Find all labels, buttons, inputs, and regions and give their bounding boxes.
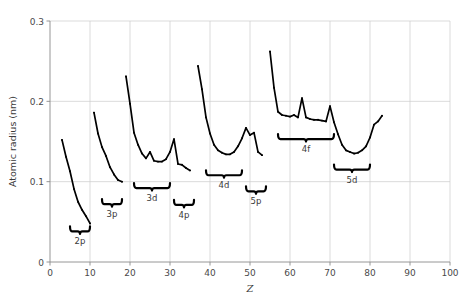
brace-label-2p: 2p	[75, 236, 86, 246]
data-point	[105, 155, 107, 157]
x-tick-label: 20	[124, 268, 136, 278]
brace-5p	[246, 186, 266, 194]
data-point	[349, 151, 351, 153]
data-point	[121, 181, 123, 183]
data-point	[213, 144, 215, 146]
data-point	[65, 156, 67, 158]
data-point	[169, 151, 171, 153]
brace-label-4p: 4p	[179, 210, 190, 220]
data-point	[185, 167, 187, 169]
data-point	[97, 133, 99, 135]
grid-lines	[50, 21, 450, 262]
data-point	[237, 145, 239, 147]
data-point	[285, 115, 287, 117]
data-point	[145, 157, 147, 159]
data-point	[309, 118, 311, 120]
brace-3p	[102, 199, 122, 207]
data-point	[201, 88, 203, 90]
data-point	[85, 215, 87, 217]
data-point	[209, 133, 211, 135]
series-line	[94, 113, 122, 182]
axis-titles: Atomic radius (nm)Z	[7, 96, 255, 294]
data-point	[225, 153, 227, 155]
data-point	[297, 116, 299, 118]
data-point	[357, 152, 359, 154]
y-tick-label: 0.3	[30, 17, 44, 27]
data-point	[89, 222, 91, 224]
axes	[47, 21, 451, 266]
data-point	[293, 114, 295, 116]
data-point	[141, 153, 143, 155]
x-tick-label: 40	[204, 268, 216, 278]
data-point	[329, 105, 331, 107]
data-point	[229, 153, 231, 155]
brace-5d	[334, 165, 370, 173]
brace-label-5d: 5d	[347, 175, 358, 185]
x-tick-label: 10	[84, 268, 96, 278]
x-tick-label: 60	[284, 268, 296, 278]
data-point	[245, 127, 247, 129]
tick-labels: 010203040506070809010000.10.20.3	[30, 17, 459, 279]
brace-label-5p: 5p	[251, 196, 262, 206]
data-point	[289, 116, 291, 118]
brace-4d	[206, 170, 242, 178]
data-point	[189, 169, 191, 171]
data-point	[113, 173, 115, 175]
data-point	[157, 161, 159, 163]
data-point	[137, 144, 139, 146]
data-point	[205, 116, 207, 118]
data-point	[345, 149, 347, 151]
brace-4f	[278, 134, 334, 142]
chart-container: 010203040506070809010000.10.20.3 2p3p3d4…	[0, 0, 470, 305]
data-point	[321, 120, 323, 122]
y-axis-title: Atomic radius (nm)	[7, 96, 18, 187]
data-point	[325, 120, 327, 122]
brace-4p	[174, 200, 194, 208]
data-point	[241, 137, 243, 139]
x-tick-label: 80	[364, 268, 376, 278]
data-point	[109, 166, 111, 168]
data-point	[269, 51, 271, 53]
data-point	[257, 151, 259, 153]
data-point	[365, 145, 367, 147]
series-line	[126, 76, 190, 170]
data-point	[61, 139, 63, 141]
data-point	[333, 121, 335, 123]
data-point	[273, 87, 275, 89]
data-point	[233, 151, 235, 153]
data-point	[181, 164, 183, 166]
data-point	[81, 209, 83, 211]
data-point	[149, 151, 151, 153]
data-point	[301, 97, 303, 99]
data-point	[153, 160, 155, 162]
data-point	[93, 112, 95, 114]
x-tick-label: 0	[47, 268, 53, 278]
x-tick-label: 90	[404, 268, 416, 278]
data-point	[317, 119, 319, 121]
y-tick-label: 0	[38, 258, 44, 268]
data-point	[281, 114, 283, 116]
data-point	[253, 132, 255, 134]
data-point	[369, 137, 371, 139]
data-point	[277, 111, 279, 113]
x-axis-title: Z	[246, 283, 255, 294]
data-point	[173, 138, 175, 140]
data-point	[177, 163, 179, 165]
brace-label-3p: 3p	[107, 209, 118, 219]
y-tick-label: 0.1	[30, 177, 44, 187]
x-tick-label: 70	[324, 268, 336, 278]
data-point	[221, 152, 223, 154]
data-point	[101, 146, 103, 148]
data-point	[353, 153, 355, 155]
data-point	[305, 116, 307, 118]
brace-label-3d: 3d	[147, 193, 158, 203]
brace-3d	[134, 183, 170, 191]
x-tick-label: 50	[244, 268, 256, 278]
data-point	[133, 132, 135, 134]
x-tick-label: 30	[164, 268, 176, 278]
data-point	[373, 124, 375, 126]
data-point	[165, 158, 167, 160]
data-point	[73, 188, 75, 190]
data-point	[217, 149, 219, 151]
data-point	[77, 201, 79, 203]
